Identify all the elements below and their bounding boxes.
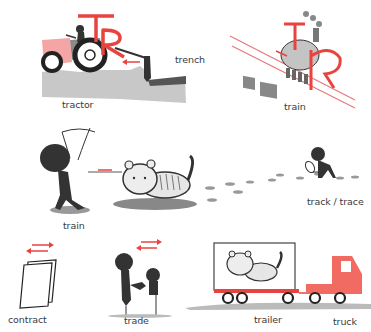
tracker-scene xyxy=(304,147,336,178)
train-car-1 xyxy=(243,76,255,90)
label-trench: trench xyxy=(175,54,205,65)
contract-paper-front xyxy=(20,263,52,308)
smoke-puff-2 xyxy=(310,15,316,21)
tiger-shadow xyxy=(113,198,197,210)
label-trailer: trailer xyxy=(254,314,282,325)
trainer-body xyxy=(55,170,85,210)
tractor-rear-wheel xyxy=(75,40,105,70)
label-tractor: tractor xyxy=(62,99,93,110)
handshake xyxy=(130,282,146,290)
tractor-arrow-head xyxy=(122,59,127,65)
trader-short-body xyxy=(149,281,158,295)
tr-vocabulary-illustration xyxy=(0,0,371,332)
truck-bed xyxy=(306,284,332,294)
trader-tall-body xyxy=(121,270,131,306)
trailer-tiger-ear-left xyxy=(229,251,235,257)
locomotive-scene xyxy=(230,11,355,108)
truck-window xyxy=(341,261,351,272)
tractor-front-wheel xyxy=(43,53,61,71)
tracker-body xyxy=(318,160,336,178)
steering-wheel xyxy=(66,35,76,38)
locomotive-chimney xyxy=(313,28,319,42)
tiger-eye-right xyxy=(144,177,146,179)
label-trade: trade xyxy=(124,315,149,326)
trade-arrow-left-head xyxy=(136,245,141,251)
driver-head xyxy=(76,25,84,33)
smoke-puff-3 xyxy=(316,21,322,27)
tiger-tail xyxy=(188,156,193,180)
wheels xyxy=(223,293,345,303)
train-car-2 xyxy=(260,82,277,99)
label-train-tiger: train xyxy=(63,220,85,231)
tracker-head xyxy=(311,147,325,161)
label-contract: contract xyxy=(8,314,47,325)
trailer-tiger-ear-right xyxy=(245,251,251,257)
trade-arrow-right-head xyxy=(157,239,162,245)
tractor-scene xyxy=(42,16,186,103)
smoke-puff-1 xyxy=(303,11,309,17)
tiger-eye-left xyxy=(133,177,135,179)
contract-scene xyxy=(20,242,56,308)
contract-arrow-right-head xyxy=(49,242,54,248)
trader-short-head xyxy=(146,268,160,282)
contract-arrow-left-head xyxy=(26,248,31,254)
label-truck: truck xyxy=(333,316,357,327)
label-train-locomotive: train xyxy=(284,101,306,112)
tiger-ear-left xyxy=(125,161,133,169)
trade-scene xyxy=(108,239,172,318)
trainer-head xyxy=(40,144,70,172)
plow-blade xyxy=(144,56,151,82)
label-track-trace: track / trace xyxy=(307,196,364,207)
trailer-truck-scene xyxy=(185,243,371,310)
trader-tall-head xyxy=(115,253,133,271)
tiger-ear-right xyxy=(147,160,155,168)
road xyxy=(185,303,371,310)
